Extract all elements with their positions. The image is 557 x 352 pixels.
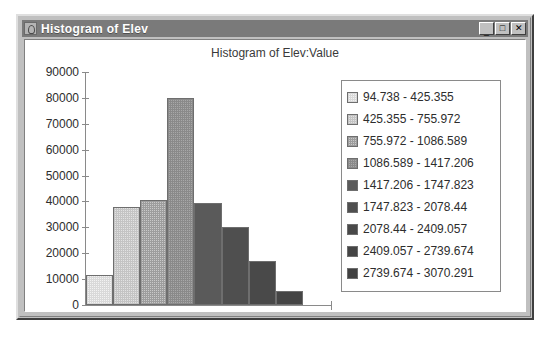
legend-item[interactable]: 2739.674 - 3070.291 [347,262,496,284]
legend-swatch [347,224,358,235]
legend-swatch [347,180,358,191]
legend-item[interactable]: 2078.44 - 2409.057 [347,218,496,240]
histogram-bar[interactable] [249,261,276,305]
legend-swatch [347,136,358,147]
histogram-window-icon [24,22,37,35]
legend-item[interactable]: 755.972 - 1086.589 [347,130,496,152]
legend-item[interactable]: 425.355 - 755.972 [347,108,496,130]
histogram-bar[interactable] [113,207,140,305]
y-axis-label: 80000 [46,91,79,105]
close-icon: ✕ [512,23,525,34]
y-axis-label: 90000 [46,65,79,79]
histogram-bar[interactable] [194,203,221,305]
legend-item-label: 425.355 - 755.972 [363,112,460,126]
legend-item-label: 2409.057 - 2739.674 [363,244,474,258]
window-controls: _ □ ✕ [479,22,528,35]
histogram-bar[interactable] [222,227,249,305]
y-axis-label: 10000 [46,272,79,286]
histogram-window[interactable]: Histogram of Elev _ □ ✕ Histogram of Ele… [16,14,534,320]
legend-item[interactable]: 1086.589 - 1417.206 [347,152,496,174]
y-axis-label: 70000 [46,117,79,131]
legend-item-label: 2739.674 - 3070.291 [363,266,474,280]
y-axis-label: 0 [72,298,79,312]
close-button[interactable]: ✕ [511,22,526,35]
legend-item[interactable]: 1417.206 - 1747.823 [347,174,496,196]
legend-swatch [347,158,358,169]
legend-item-label: 2078.44 - 2409.057 [363,222,467,236]
legend-swatch [347,246,358,257]
window-titlebar[interactable]: Histogram of Elev _ □ ✕ [22,20,528,37]
y-axis-label: 30000 [46,220,79,234]
y-axis-tick [82,305,89,306]
histogram-bars [86,72,330,305]
y-axis-label: 60000 [46,143,79,157]
legend-item-label: 1417.206 - 1747.823 [363,178,474,192]
legend-swatch [347,114,358,125]
window-title: Histogram of Elev [41,22,148,36]
histogram-bar[interactable] [276,291,303,305]
histogram-bar[interactable] [167,98,194,305]
legend-item[interactable]: 2409.057 - 2739.674 [347,240,496,262]
legend-item-label: 94.738 - 425.355 [363,90,454,104]
legend-item[interactable]: 1747.823 - 2078.44 [347,196,496,218]
legend-swatch [347,202,358,213]
legend-item[interactable]: 94.738 - 425.355 [347,86,496,108]
legend-item-label: 1086.589 - 1417.206 [363,156,474,170]
histogram-bar[interactable] [86,275,113,305]
minimize-icon: _ [480,23,493,34]
legend-item-label: 1747.823 - 2078.44 [363,200,467,214]
x-axis-line [85,305,332,306]
x-axis-end-tick [331,301,332,310]
minimize-button[interactable]: _ [479,22,494,35]
y-axis-label: 50000 [46,169,79,183]
chart-title: Histogram of Elev:Value [25,46,525,60]
maximize-icon: □ [496,23,509,34]
maximize-button[interactable]: □ [495,22,510,35]
legend-swatch [347,268,358,279]
chart-legend: 94.738 - 425.355425.355 - 755.972755.972… [341,80,501,292]
chart-client-area: Histogram of Elev:Value 9000080000700006… [24,39,526,312]
legend-swatch [347,92,358,103]
histogram-plot: 9000080000700006000050000400003000020000… [85,72,330,312]
y-axis-label: 40000 [46,194,79,208]
y-axis-label: 20000 [46,246,79,260]
histogram-bar[interactable] [140,200,167,305]
window-inner-frame: Histogram of Elev _ □ ✕ Histogram of Ele… [19,17,531,317]
legend-item-label: 755.972 - 1086.589 [363,134,467,148]
